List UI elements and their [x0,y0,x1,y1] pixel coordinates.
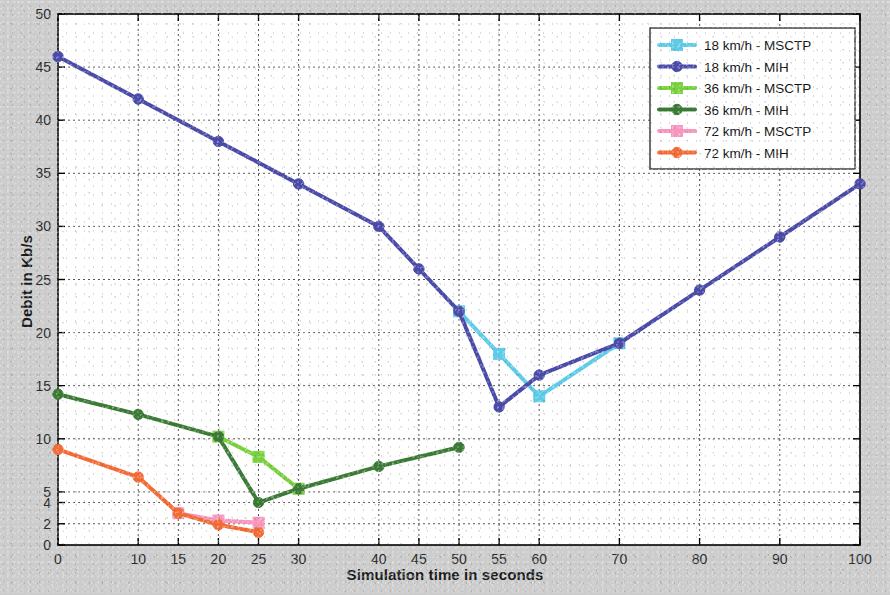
x-tick-label: 60 [531,551,547,567]
data-point-marker [494,348,505,359]
data-point-marker [414,264,424,274]
y-tick-label: 5 [43,484,51,500]
x-tick-label: 15 [171,551,187,567]
x-tick-label: 100 [848,551,871,567]
data-point-marker [534,370,544,380]
data-point-marker [133,409,143,419]
data-point-marker [213,136,223,146]
legend-marker [672,126,683,137]
data-point-marker [53,389,63,399]
chart-legend[interactable]: 18 km/h - MSCTP18 km/h - MIH36 km/h - MS… [650,28,855,169]
data-point-marker [53,51,63,61]
legend-entry[interactable]: 72 km/h - MSCTP [659,124,811,139]
x-tick-label: 20 [211,551,227,567]
x-tick-label: 40 [371,551,387,567]
data-point-marker [454,306,464,316]
line-chart-plot: 18 km/h - MSCTP18 km/h - MIH36 km/h - MS… [0,0,890,595]
x-tick-label: 45 [411,551,427,567]
x-tick-label: 50 [451,551,467,567]
legend-label: 18 km/h - MIH [704,60,789,75]
data-point-marker [494,402,504,412]
y-tick-label: 15 [35,378,51,394]
legend-marker [672,147,682,157]
legend-label: 72 km/h - MSCTP [704,124,811,139]
data-point-marker [454,442,464,452]
data-point-marker [253,497,263,507]
x-tick-label: 10 [130,551,146,567]
chart-figure: 18 km/h - MSCTP18 km/h - MIH36 km/h - MS… [0,0,890,595]
data-point-marker [253,527,263,537]
x-tick-label: 80 [692,551,708,567]
x-tick-label: 25 [251,551,267,567]
legend-label: 72 km/h - MIH [704,146,789,161]
legend-label: 18 km/h - MSCTP [704,38,811,53]
data-point-marker [534,391,545,402]
y-tick-label: 20 [35,325,51,341]
y-tick-label: 30 [35,218,51,234]
x-tick-label: 0 [54,551,62,567]
data-point-marker [253,451,264,462]
data-point-marker [173,508,183,518]
y-tick-label: 0 [43,537,51,553]
data-point-marker [53,444,63,454]
x-tick-label: 90 [772,551,788,567]
legend-marker [672,104,682,114]
data-point-marker [293,179,303,189]
x-tick-label: 70 [612,551,628,567]
data-point-marker [694,285,704,295]
legend-marker [672,83,683,94]
legend-label: 36 km/h - MIH [704,103,789,118]
y-tick-label: 10 [35,431,51,447]
y-tick-label: 2 [43,516,51,532]
data-point-marker [374,221,384,231]
data-point-marker [213,520,223,530]
y-axis-title: Debit in Kb/s [18,172,35,392]
data-point-marker [775,232,785,242]
y-tick-label: 45 [35,59,51,75]
y-tick-label: 50 [35,6,51,22]
data-point-marker [293,484,303,494]
data-point-marker [133,472,143,482]
x-axis-title: Simulation time in seconds [0,566,890,583]
legend-entry[interactable]: 18 km/h - MSCTP [659,38,811,53]
legend-marker [672,61,682,71]
legend-label: 36 km/h - MSCTP [704,81,811,96]
legend-marker [672,40,683,51]
data-point-marker [213,431,223,441]
x-tick-label: 55 [491,551,507,567]
data-point-marker [614,338,624,348]
y-tick-label: 25 [35,272,51,288]
legend-entry[interactable]: 36 km/h - MSCTP [659,81,811,96]
data-point-marker [855,179,865,189]
data-point-marker [133,94,143,104]
y-tick-label: 35 [35,165,51,181]
x-tick-label: 30 [291,551,307,567]
data-point-marker [253,517,264,528]
y-tick-label: 40 [35,112,51,128]
data-point-marker [374,461,384,471]
